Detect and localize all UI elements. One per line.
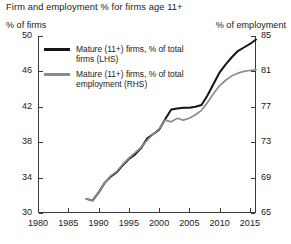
right-tick-label: 85 <box>261 30 271 40</box>
legend-swatch-black <box>44 48 70 51</box>
right-tick-label: 73 <box>261 136 271 146</box>
left-tick-label: 34 <box>2 172 32 182</box>
x-tick-label: 1990 <box>85 218 113 228</box>
x-tick-label: 2015 <box>236 218 264 228</box>
right-tick <box>251 213 255 214</box>
x-tick-label: 1980 <box>24 218 52 228</box>
right-tick-label: 77 <box>261 101 271 111</box>
right-tick-label: 81 <box>261 65 271 75</box>
legend: Mature (11+) firms, % of total firms (LH… <box>44 44 184 94</box>
legend-label: Mature (11+) firms, % of total firms (LH… <box>76 44 184 64</box>
right-tick-label: 69 <box>261 172 271 182</box>
legend-item: Mature (11+) firms, % of total employmen… <box>44 69 184 89</box>
left-tick-label: 46 <box>2 65 32 75</box>
left-tick <box>39 213 43 214</box>
x-tick-label: 1995 <box>115 218 143 228</box>
x-tick-label: 2000 <box>145 218 173 228</box>
left-axis-caption: % of firms <box>6 20 46 30</box>
left-tick-label: 38 <box>2 136 32 146</box>
right-tick-label: 65 <box>261 207 271 217</box>
chart-figure: Firm and employment % for firms age 11+ … <box>0 0 291 244</box>
legend-swatch-gray <box>44 73 70 76</box>
x-tick-label: 2005 <box>175 218 203 228</box>
legend-label: Mature (11+) firms, % of total employmen… <box>76 69 184 89</box>
chart-title: Firm and employment % for firms age 11+ <box>6 2 183 12</box>
left-tick-label: 50 <box>2 30 32 40</box>
right-axis-caption: % of employment <box>216 20 286 30</box>
x-tick-label: 1985 <box>54 218 82 228</box>
x-tick-label: 2010 <box>206 218 234 228</box>
left-tick-label: 42 <box>2 101 32 111</box>
legend-item: Mature (11+) firms, % of total firms (LH… <box>44 44 184 64</box>
left-tick-label: 30 <box>2 207 32 217</box>
